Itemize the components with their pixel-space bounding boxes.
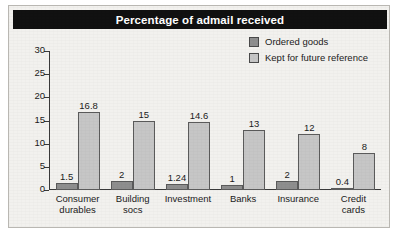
bar-value-label: 16.8: [79, 100, 98, 111]
legend-swatch-ordered-goods: [249, 37, 259, 47]
chart-title: Percentage of admail received: [116, 14, 284, 26]
bar: 12: [298, 134, 320, 190]
legend-item-ordered-goods: Ordered goods: [249, 34, 389, 49]
bar-group: 113: [216, 51, 271, 190]
y-axis-tick-label: 10: [34, 137, 45, 148]
x-axis-category-labels: ConsumerdurablesBuildingsocsInvestmentBa…: [50, 193, 381, 215]
bar: 16.8: [78, 112, 100, 190]
x-axis-category-label: Creditcards: [326, 193, 381, 215]
y-axis-tick-label: 20: [34, 90, 45, 101]
y-axis-tick-label: 15: [34, 114, 45, 125]
plot-area: 051015202530 1.516.82151.2414.61132120.4…: [49, 51, 381, 190]
bar-value-label: 1.5: [60, 171, 73, 182]
bar-group: 1.516.8: [50, 51, 105, 190]
y-axis-tick-label: 5: [40, 160, 45, 171]
bar-value-label: 2: [285, 169, 290, 180]
bar-group: 1.2414.6: [160, 51, 215, 190]
bar-value-label: 2: [119, 169, 124, 180]
bar: 14.6: [188, 122, 210, 190]
bar-group: 215: [105, 51, 160, 190]
x-axis-category-label: Insurance: [271, 193, 326, 215]
x-axis-category-label: Investment: [160, 193, 215, 215]
bar-value-label: 15: [138, 109, 149, 120]
y-axis-tick-label: 25: [34, 67, 45, 78]
bar: 8: [353, 153, 375, 190]
chart-title-banner: Percentage of admail received: [13, 10, 387, 29]
bar-group: 212: [271, 51, 326, 190]
y-axis-tick: 0: [49, 190, 50, 191]
bar-group: 0.48: [326, 51, 381, 190]
bar-groups: 1.516.82151.2414.61132120.48: [50, 51, 381, 190]
bar-value-label: 14.6: [190, 110, 209, 121]
x-axis-category-label: Banks: [216, 193, 271, 215]
bar-value-label: 1.24: [168, 172, 187, 183]
y-axis-tick-label: 0: [40, 183, 45, 194]
chart-figure: Percentage of admail received Ordered go…: [8, 5, 390, 228]
bar: 0.4: [331, 188, 353, 191]
bar-value-label: 12: [304, 122, 315, 133]
bar: 15: [133, 121, 155, 191]
bar: 13: [243, 130, 265, 190]
bar: 1: [221, 185, 243, 190]
x-axis-category-label: Consumerdurables: [50, 193, 105, 215]
bar-value-label: 1: [229, 173, 234, 184]
bar-value-label: 0.4: [336, 176, 349, 187]
bar: 1.24: [166, 184, 188, 190]
legend-label-ordered-goods: Ordered goods: [265, 36, 328, 47]
y-axis-tick-label: 30: [34, 44, 45, 55]
bar-value-label: 13: [249, 118, 260, 129]
bar: 2: [111, 181, 133, 190]
bar: 2: [276, 181, 298, 190]
bar: 1.5: [56, 183, 78, 190]
bar-value-label: 8: [362, 141, 367, 152]
x-axis-category-label: Buildingsocs: [105, 193, 160, 215]
